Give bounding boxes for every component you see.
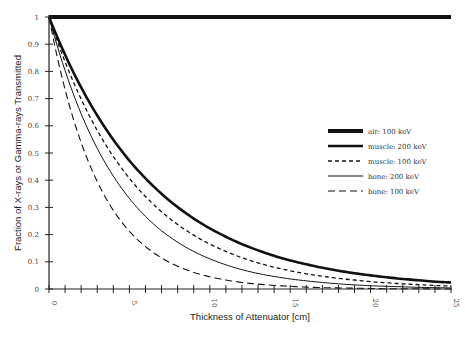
- x-ticks: 0510152025: [49, 285, 460, 307]
- y-tick-label: 0.2: [28, 231, 39, 239]
- y-tick-label: 0.8: [28, 68, 39, 76]
- y-tick-label: 0: [35, 286, 39, 294]
- x-tick-label: 25: [452, 299, 460, 308]
- y-tick-label: 0.4: [28, 177, 40, 185]
- x-tick-label: 5: [130, 301, 138, 305]
- y-tick-label: 0.9: [28, 41, 39, 49]
- legend: air: 100 keVmuscle: 200 keVmuscle: 100 k…: [328, 128, 428, 196]
- y-axis-title: Fraction of X-rays or Gamma-rays Transmi…: [12, 55, 23, 251]
- chart: 00.10.20.30.40.50.60.70.80.91 0510152025…: [0, 0, 465, 341]
- y-tick-label: 0.6: [28, 122, 40, 130]
- x-tick-label: 15: [291, 299, 299, 308]
- x-tick-label: 10: [210, 299, 218, 308]
- y-tick-label: 0.5: [28, 150, 39, 158]
- plot-area: [49, 17, 451, 289]
- y-tick-label: 1: [35, 14, 39, 22]
- x-tick-label: 0: [50, 301, 58, 305]
- y-tick-label: 0.7: [28, 95, 39, 103]
- y-tick-label: 0.1: [28, 258, 39, 266]
- series-line-2: [49, 17, 451, 286]
- x-axis-title: Thickness of Attenuator [cm]: [190, 311, 310, 322]
- legend-label: bone: 200 keV: [368, 173, 420, 181]
- legend-label: muscle: 200 keV: [368, 143, 428, 151]
- legend-label: air: 100 keV: [368, 128, 412, 136]
- legend-label: bone: 100 keV: [368, 188, 420, 196]
- legend-label: muscle: 100 keV: [368, 158, 428, 166]
- x-tick-label: 20: [371, 299, 379, 308]
- y-tick-label: 0.3: [28, 204, 39, 212]
